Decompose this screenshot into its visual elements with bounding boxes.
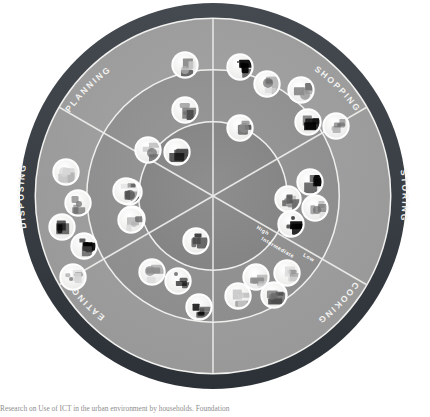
- food-waste-tracker-icon[interactable]: [112, 177, 139, 204]
- recipe-book-icon[interactable]: [171, 96, 198, 123]
- vacuum-sealer-icon[interactable]: [277, 210, 304, 237]
- shopping-bags-icon[interactable]: [253, 70, 280, 97]
- microwave-oven-icon[interactable]: [260, 281, 287, 308]
- compost-bin-icon[interactable]: [48, 213, 75, 240]
- icon-artwork: [267, 291, 285, 305]
- figure-caption: Research on Use of ICT in the urban envi…: [0, 404, 430, 413]
- storage-jar-icon[interactable]: [301, 194, 328, 221]
- wheel-diagram: PLANNING SHOPPING STORING COOKING EATING…: [0, 0, 430, 417]
- laptop-online-shop-icon[interactable]: [322, 112, 349, 139]
- television-meal-icon[interactable]: [185, 293, 212, 320]
- cookbook-binder-icon[interactable]: [163, 138, 190, 165]
- tablet-device-icon[interactable]: [226, 114, 253, 141]
- icon-artwork: [58, 167, 74, 183]
- wheel-svg: PLANNING SHOPPING STORING COOKING EATING…: [0, 0, 430, 417]
- dinner-plate-icon[interactable]: [182, 227, 209, 254]
- bin-collection-app-icon[interactable]: [59, 263, 86, 290]
- notepad-checklist-icon[interactable]: [171, 51, 198, 78]
- kitchen-scale-icon[interactable]: [224, 282, 251, 309]
- waste-sorting-bins-icon[interactable]: [52, 158, 79, 185]
- waste-chute-icon[interactable]: [70, 232, 97, 259]
